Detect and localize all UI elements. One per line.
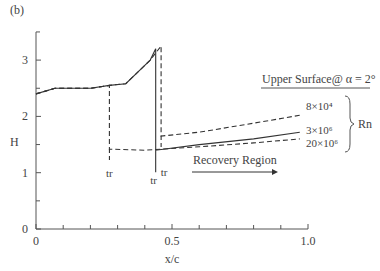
legend-brace	[345, 96, 354, 152]
series-line	[36, 46, 300, 136]
recovery-label: Recovery Region	[193, 153, 277, 167]
x-tick-label: 0	[33, 234, 39, 248]
chart: 012300.51.0x/cH (b)trtrtrUpper Surface@ …	[0, 0, 380, 271]
annotation-title: Upper Surface@ α = 2°	[262, 72, 376, 86]
transition-label: tr	[106, 167, 113, 179]
y-tick-label: 1	[22, 166, 28, 180]
x-tick-label: 1.0	[301, 234, 316, 248]
transition-label: tr	[161, 166, 168, 178]
y-tick-label: 2	[22, 109, 28, 123]
annotations: (b)trtrtrUpper Surface@ α = 2°8×10⁴3×10⁶…	[10, 3, 376, 186]
y-tick-label: 3	[22, 53, 28, 67]
legend-label: 3×10⁶	[306, 124, 333, 136]
axes	[36, 32, 308, 229]
series-line	[36, 49, 300, 150]
y-axis-title: H	[10, 135, 19, 149]
y-tick-label: 0	[22, 222, 28, 236]
brace-label: Rn	[358, 117, 372, 131]
series-line	[36, 85, 300, 150]
arrow-head-icon	[272, 169, 278, 175]
x-tick-label: 0.5	[165, 234, 180, 248]
legend-label: 20×10⁶	[306, 137, 338, 149]
legend-label: 8×10⁴	[306, 100, 333, 112]
transition-label: tr	[150, 174, 157, 186]
panel-label: (b)	[10, 3, 24, 17]
x-axis-title: x/c	[165, 252, 180, 266]
